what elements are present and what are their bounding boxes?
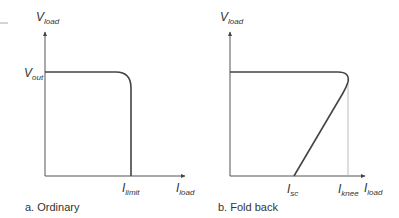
foldback-curve	[230, 72, 348, 176]
caption-fold-back: b. Fold back	[218, 201, 278, 213]
caption-ordinary: a. Ordinary	[25, 201, 80, 213]
x-axis-label: Iload	[364, 181, 383, 197]
panel-fold-back: Vload Isc Iknee Iload b. Fold back	[218, 10, 383, 213]
panel-ordinary: Vload Vout Ilimit Iload a. Ordinary	[24, 10, 195, 213]
vout-label: Vout	[24, 66, 44, 82]
y-axis-label: Vload	[220, 10, 244, 26]
ilimit-label: Ilimit	[122, 181, 140, 197]
current-limiting-diagram: Vload Vout Ilimit Iload a. Ordinary Vloa…	[0, 0, 399, 218]
iknee-label: Iknee	[338, 182, 359, 198]
isc-label: Isc	[287, 182, 298, 198]
ordinary-limit-curve	[45, 72, 131, 176]
y-axis-label: Vload	[36, 10, 60, 26]
x-axis-label: Iload	[176, 181, 195, 197]
